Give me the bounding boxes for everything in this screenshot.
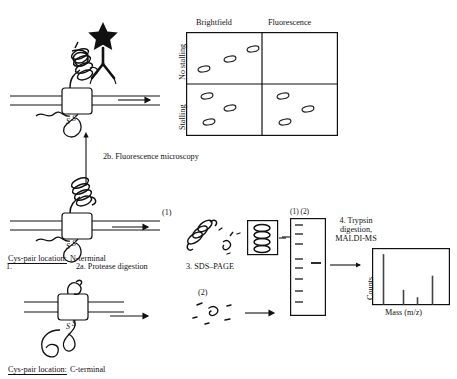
translocon-channel — [58, 294, 88, 320]
fluorophore-star-icon — [88, 22, 118, 50]
fragment-group-2 — [183, 296, 287, 330]
small-loop-fragment — [223, 232, 233, 250]
peptide-debris — [193, 303, 231, 324]
debris-marks — [219, 228, 240, 254]
svg-text:S: S — [72, 114, 76, 123]
arrow-fragments2-to-gel — [245, 310, 274, 315]
disulfide-loop — [42, 320, 75, 357]
spectrum-x-axis-label: Mass (m/z) — [385, 308, 422, 317]
boxed-helix-frame — [248, 221, 278, 255]
column-header-fluorescence: Fluorescence — [268, 18, 311, 27]
free-helix-fragment — [186, 218, 217, 250]
step-3-label: 3. SDS–PAGE — [186, 262, 234, 271]
svg-text:S: S — [66, 322, 70, 331]
c-terminal-construct-illustration: S S — [0, 272, 175, 364]
c-terminal-label-value: C-terminal — [70, 365, 105, 374]
step-4-line-1: 4. Trypsin — [328, 216, 384, 225]
step-4-line-2: digestion, — [328, 225, 384, 234]
gel-lane-labels: (1) (2) — [290, 208, 309, 216]
figure-canvas: S S Brightfield Fluorescence — [0, 0, 457, 379]
translocon-channel — [62, 213, 92, 239]
c-terminal-construct-label: Cys-pair location:C-terminal — [8, 358, 105, 376]
step-2b-label: 2b. Fluorescence microscopy — [103, 152, 199, 161]
spectrum-y-axis-label: Counts — [366, 277, 375, 300]
row-header-no-stalling: No stalling — [178, 44, 187, 80]
sds-page-gel — [290, 218, 326, 316]
antibody-icon — [92, 48, 114, 78]
microscopy-panel: Brightfield Fluorescence — [186, 18, 346, 138]
svg-text:S: S — [72, 319, 76, 328]
periplasmic-loop — [68, 280, 82, 294]
step-2a-label: 2a. Protease digestion — [76, 262, 148, 271]
step-4-line-3: MALDI-MS — [328, 234, 384, 243]
translocon-channel — [62, 88, 92, 114]
n-terminal-label-prefix: Cys-pair location: — [8, 254, 67, 264]
fragment-group-1 — [183, 218, 287, 260]
column-header-brightfield: Brightfield — [196, 18, 232, 27]
microscopy-grid — [186, 32, 338, 136]
step-4-label: 4. Trypsin digestion, MALDI-MS — [328, 216, 384, 244]
step-1-label: 1. — [6, 262, 12, 271]
c-terminal-label-prefix: Cys-pair location: — [8, 365, 67, 375]
disulfide-label: S — [66, 117, 70, 126]
arrow-to-microscopy — [118, 97, 150, 102]
arrow-to-fragments-1 — [112, 224, 148, 229]
arrow-to-fragments-2 — [110, 313, 148, 318]
row-header-stalling: Stalling — [178, 105, 187, 130]
arrow-gel-to-spectrum — [330, 258, 368, 272]
top-construct-illustration: S S — [0, 8, 175, 148]
fragment-tag-1: (1) — [162, 208, 172, 217]
